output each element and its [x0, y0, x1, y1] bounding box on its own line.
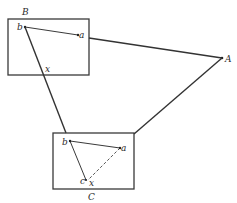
triangulation-diagram: B b a x A C b a c x — [0, 0, 237, 203]
point-b-in-c — [69, 140, 71, 142]
line-b-a-in-b — [25, 27, 78, 35]
line-a-to-box-c — [134, 58, 222, 134]
label-x-in-b: x — [45, 64, 50, 74]
line-b-to-box-c — [25, 27, 66, 133]
label-a-in-b: a — [79, 30, 84, 40]
line-box-b-to-a — [89, 38, 222, 58]
label-box-b: B — [21, 7, 29, 17]
label-x-in-c: x — [89, 178, 94, 188]
dashed-line-a-c-in-c — [88, 148, 120, 180]
line-b-c-in-c — [70, 141, 86, 180]
point-c-in-c — [85, 179, 87, 181]
label-a-in-c: a — [121, 143, 126, 153]
label-box-c: C — [88, 192, 95, 202]
label-c-in-c: c — [80, 176, 85, 186]
label-a: A — [224, 54, 232, 64]
line-b-a-in-c — [70, 141, 120, 148]
label-b-in-c: b — [62, 137, 68, 147]
label-b-in-b: b — [17, 22, 23, 32]
